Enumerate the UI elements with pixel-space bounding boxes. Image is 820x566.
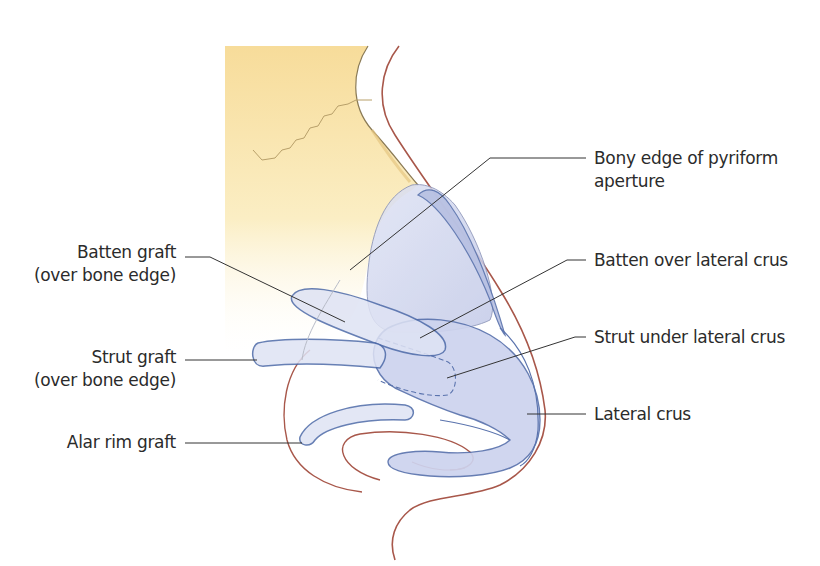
label-batten-over-lateral-crus: Batten over lateral crus	[594, 249, 788, 272]
label-bony-edge-of-pyriform-aperture: Bony edge of pyriform aperture	[594, 147, 778, 193]
label-batten-graft: Batten graft (over bone edge)	[34, 241, 176, 287]
label-strut-graft: Strut graft (over bone edge)	[34, 346, 176, 392]
label-lateral-crus: Lateral crus	[594, 403, 691, 426]
label-alar-rim-graft: Alar rim graft	[67, 431, 176, 454]
strut-graft-shape	[253, 339, 386, 368]
label-strut-under-lateral-crus: Strut under lateral crus	[594, 326, 785, 349]
alar-rim-graft-shape	[300, 404, 414, 445]
